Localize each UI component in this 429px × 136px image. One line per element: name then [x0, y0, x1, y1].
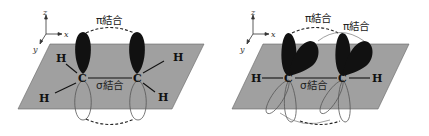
pi-bond-label: π結合	[343, 20, 370, 32]
hydrogen-atom: H	[39, 92, 49, 105]
acetylene-panel: z x y H C C H	[232, 8, 409, 125]
hydrogen-atom: H	[173, 51, 183, 64]
y-axis-label: y	[32, 45, 38, 54]
pi-overlap-upper-dashed	[292, 28, 338, 34]
pi-overlap-upper-dashed	[86, 28, 134, 34]
sigma-bond-label: σ結合	[300, 79, 328, 91]
sigma-bond-label: σ結合	[96, 79, 124, 91]
carbon-atom-right: C	[338, 72, 347, 85]
pi-overlap-lower-dashed	[86, 119, 134, 125]
carbon-atom-right: C	[133, 72, 142, 85]
hydrogen-atom: H	[158, 91, 168, 104]
axes-icon	[247, 15, 269, 44]
ethylene-panel: z x y C C H H H H π結合 σ結合	[18, 8, 204, 125]
pi-bond-label: π結合	[96, 14, 123, 26]
z-axis-label: z	[42, 8, 48, 17]
x-axis-label: x	[271, 30, 276, 39]
carbon-atom-left: C	[78, 72, 87, 85]
pi-bond-label: π結合	[305, 12, 332, 24]
carbon-atom-left: C	[284, 72, 293, 85]
axes-icon	[40, 15, 62, 44]
hydrogen-atom: H	[372, 72, 382, 85]
hydrogen-atom: H	[56, 52, 66, 65]
orbital-diagram: z x y C C H H H H π結合 σ結合	[0, 0, 429, 136]
hydrogen-atom: H	[251, 72, 261, 85]
x-axis-label: x	[64, 30, 69, 39]
y-axis-label: y	[239, 45, 245, 54]
z-axis-label: z	[250, 8, 256, 17]
